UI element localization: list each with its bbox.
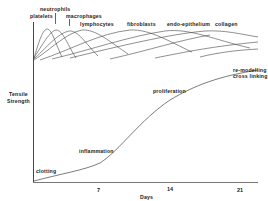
macrophages-curve: [34, 31, 98, 59]
label-clotting: clotting: [36, 168, 56, 174]
ylabel-line2: Strength: [7, 98, 30, 104]
tick-14: 14: [167, 186, 174, 192]
label-fibroblasts: fibroblasts: [127, 21, 156, 27]
label-neutrophils: neutrophils: [40, 6, 70, 12]
label-platelets: platelets: [30, 13, 53, 19]
label-inflammation: inflammation: [79, 148, 114, 154]
cell-phase-curves: [34, 29, 258, 60]
ylabel-line1: Tensile: [9, 91, 28, 97]
label-collagen: collagen: [215, 21, 238, 27]
tick-21: 21: [237, 187, 243, 193]
neutrophils-curve: [34, 30, 76, 58]
collagen-curve: [70, 31, 258, 58]
label-endo-epithelium: endo-epithelium: [167, 21, 210, 27]
label-macrophages: macrophages: [66, 13, 102, 19]
label-cross-linking: cross linking: [233, 73, 268, 79]
label-lymphocytes: lymphocytes: [80, 21, 114, 27]
tick-7: 7: [97, 187, 100, 193]
xlabel-days: Days: [140, 194, 153, 200]
label-proliferation: proliferation: [153, 88, 186, 94]
phase-curve-extra-3: [200, 49, 258, 57]
phase-curve-extra-1: [110, 35, 210, 59]
endo-epithelium-curve: [52, 31, 250, 59]
wound-healing-chart: neutrophils platelets macrophages lympho…: [0, 0, 268, 201]
tensile-strength-curve: [34, 70, 258, 181]
